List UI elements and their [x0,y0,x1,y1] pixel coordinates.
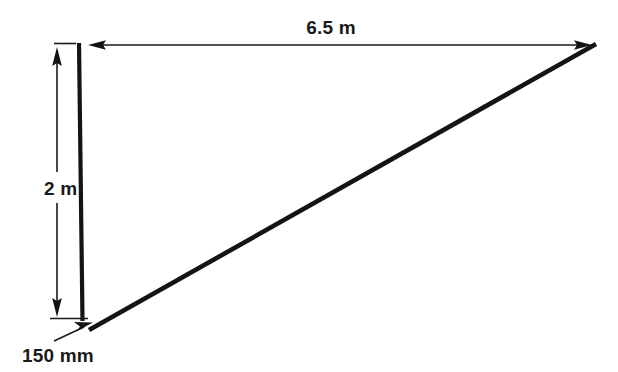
vertical-height-label: 2 m [44,178,77,199]
dimension-diagram: 6.5 m 2 m 150 mm [0,0,618,372]
diagram-background [0,0,618,372]
diagram-canvas: 6.5 m 2 m 150 mm [0,0,618,372]
horizontal-span-label: 6.5 m [306,17,356,38]
base-offset-label: 150 mm [22,345,94,366]
